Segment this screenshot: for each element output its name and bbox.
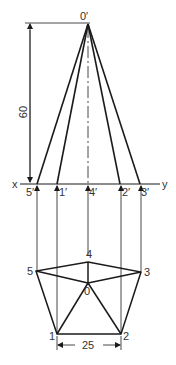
point-5-prime-label: 5′ bbox=[26, 186, 34, 198]
plan-point-1-label: 1 bbox=[49, 330, 55, 342]
labels: 0′ 60 x y 5′ 1′ 4′ 2′ 3′ 4 5 3 0 1 2 25 bbox=[12, 10, 168, 351]
pyramid-projection-drawing: 0′ 60 x y 5′ 1′ 4′ 2′ 3′ 4 5 3 0 1 2 25 bbox=[0, 0, 176, 365]
plan-center-label: 0 bbox=[84, 285, 90, 297]
x-label: x bbox=[12, 178, 18, 190]
edge-0-1 bbox=[57, 24, 88, 184]
point-1-prime-label: 1′ bbox=[59, 186, 67, 198]
side-dimension-label: 25 bbox=[82, 339, 94, 351]
edge-0-5 bbox=[37, 24, 88, 184]
plan-point-4-label: 4 bbox=[86, 248, 92, 260]
plan-point-3-label: 3 bbox=[144, 266, 150, 278]
apex-label: 0′ bbox=[80, 10, 88, 22]
elevation-view bbox=[20, 23, 160, 184]
plan-point-5-label: 5 bbox=[27, 265, 33, 277]
point-3-prime-label: 3′ bbox=[141, 186, 149, 198]
plan-point-2-label: 2 bbox=[123, 330, 129, 342]
y-label: y bbox=[162, 178, 168, 190]
plan-edge-0-5 bbox=[36, 271, 88, 283]
edge-0-3 bbox=[88, 24, 140, 184]
plan-edge-0-2 bbox=[88, 283, 121, 334]
plan-edge-0-3 bbox=[88, 272, 141, 283]
height-dimension-label: 60 bbox=[17, 106, 29, 118]
point-4-prime-label: 4′ bbox=[89, 186, 97, 198]
plan-view bbox=[36, 262, 141, 334]
edge-0-2 bbox=[88, 24, 120, 184]
point-2-prime-label: 2′ bbox=[122, 186, 130, 198]
